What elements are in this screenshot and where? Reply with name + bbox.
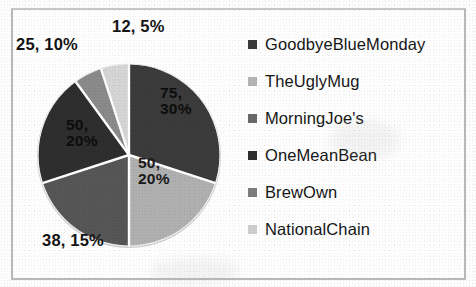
legend-label: GoodbyeBlueMonday [265, 35, 425, 54]
slice-label-onemeanbean: 38, 15% [42, 232, 104, 249]
legend-item-onemeanbean: OneMeanBean [248, 137, 460, 174]
legend-item-nationalchain: NationalChain [248, 211, 460, 248]
slice-label-brewown: 25, 10% [16, 36, 78, 53]
legend-swatch-icon [248, 225, 257, 234]
legend-item-brewown: BrewOwn [248, 174, 460, 211]
slice-label-theuglymug: 50, 20% [138, 155, 170, 187]
pie-chart [18, 55, 240, 255]
legend-swatch-icon [248, 77, 257, 86]
legend-swatch-icon [248, 40, 257, 49]
legend-label: OneMeanBean [265, 146, 377, 165]
legend-item-theuglymug: TheUglyMug [248, 63, 460, 100]
pie-svg [18, 55, 240, 255]
legend-label: NationalChain [265, 220, 370, 239]
scanned-page: 75, 30% 50, 20% 50, 20% 38, 15% 25, 10% … [0, 0, 476, 287]
slice-label-goodbyebluemonday: 75, 30% [160, 85, 192, 117]
slice-label-morningjoes: 50, 20% [66, 117, 98, 149]
chart-legend: GoodbyeBlueMonday TheUglyMug MorningJoe'… [248, 26, 460, 248]
legend-label: TheUglyMug [265, 72, 360, 91]
slice-label-nationalchain: 12, 5% [112, 18, 165, 35]
legend-swatch-icon [248, 188, 257, 197]
legend-label: BrewOwn [265, 183, 337, 202]
legend-swatch-icon [248, 151, 257, 160]
legend-item-goodbyebluemonday: GoodbyeBlueMonday [248, 26, 460, 63]
legend-swatch-icon [248, 114, 257, 123]
legend-item-morningjoes: MorningJoe's [248, 100, 460, 137]
chart-plot-area: 75, 30% 50, 20% 50, 20% 38, 15% 25, 10% … [0, 0, 476, 287]
legend-label: MorningJoe's [265, 109, 364, 128]
